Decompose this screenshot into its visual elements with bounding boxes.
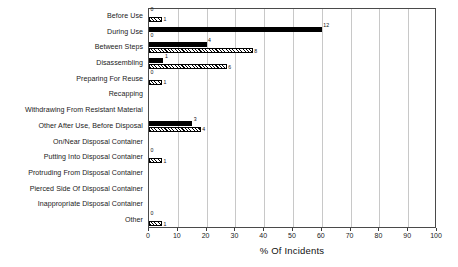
bar-value-label: 8 [254,49,257,54]
category-label: Preparing For Reuse [76,75,143,83]
category-label: During Use [107,28,143,36]
x-tick-label: 60 [317,232,325,240]
bar-group: 01 [149,214,435,228]
x-tick [350,228,351,231]
plot-area: 01120481601340101 M.D.s N=20 Nurses N=22 [148,8,436,228]
bar-value-label: 1 [165,54,168,59]
bar-value-label: 3 [194,117,197,122]
bar-group: 16 [149,57,435,71]
x-tick-label: 30 [230,232,238,240]
bar-value-label: 0 [151,33,154,38]
category-label: Other After Use, Before Disposal [38,122,143,130]
category-label: Withdrawing From Resistant Material [25,106,143,114]
category-label: Putting Into Disposal Container [44,153,143,161]
bar-value-label: 0 [151,7,154,12]
bar-nurse [149,80,162,85]
bar-nurse [149,221,162,226]
x-tick-label: 70 [346,232,354,240]
bar-group [149,198,435,212]
bar-group: 48 [149,41,435,55]
x-tick [206,228,207,231]
x-tick [148,228,149,231]
category-label: On/Near Disposal Container [53,138,143,146]
x-tick-label: 10 [173,232,181,240]
category-label: Disassembling [96,59,143,67]
category-label: Pierced Side Of Disposal Container [30,185,143,193]
bar-value-label: 6 [228,65,231,70]
bar-nurse [149,64,227,69]
x-tick [321,228,322,231]
bar-value-label: 0 [151,211,154,216]
bar-group: 120 [149,26,435,40]
x-tick [177,228,178,231]
bar-group [149,136,435,150]
bar-md [149,121,192,126]
category-axis-labels: Before UseDuring UseBetween StepsDisasse… [0,8,146,228]
x-tick [292,228,293,231]
bar-value-label: 4 [208,38,211,43]
bar-value-label: 0 [151,148,154,153]
category-label: Recapping [109,90,143,98]
bar-chart: Before UseDuring UseBetween StepsDisasse… [0,0,458,267]
bar-group: 01 [149,73,435,87]
bar-value-label: 12 [323,23,329,28]
bar-value-label: 1 [163,17,166,22]
bar-value-label: 0 [151,70,154,75]
bar-group: 01 [149,10,435,24]
bar-value-label: 1 [163,222,166,227]
bar-nurse [149,127,201,132]
x-tick-label: 90 [403,232,411,240]
x-axis: 0102030405060708090100 [148,228,436,244]
category-label: Inappropriate Disposal Container [38,200,143,208]
x-tick-label: 0 [146,232,150,240]
x-tick [436,228,437,231]
category-label: Before Use [107,12,143,20]
bar-value-label: 1 [163,80,166,85]
x-axis-title: % Of Incidents [148,245,436,256]
bar-group [149,167,435,181]
x-tick [263,228,264,231]
bar-group [149,183,435,197]
category-label: Between Steps [95,43,143,51]
bar-nurse [149,17,162,22]
category-label: Other [125,216,143,224]
bar-md [149,27,322,32]
bar-nurse [149,158,162,163]
x-tick-label: 100 [430,232,442,240]
bar-group: 01 [149,151,435,165]
x-tick-label: 80 [374,232,382,240]
x-tick [234,228,235,231]
bar-group [149,88,435,102]
x-tick-label: 40 [259,232,267,240]
bar-md [149,42,207,47]
category-label: Protruding From Disposal Container [28,169,143,177]
x-tick [407,228,408,231]
x-tick-label: 50 [288,232,296,240]
bar-value-label: 4 [202,127,205,132]
bar-group: 34 [149,120,435,134]
bar-value-label: 1 [163,159,166,164]
bar-group [149,104,435,118]
x-tick-label: 20 [202,232,210,240]
bar-md [149,58,163,63]
x-tick [378,228,379,231]
